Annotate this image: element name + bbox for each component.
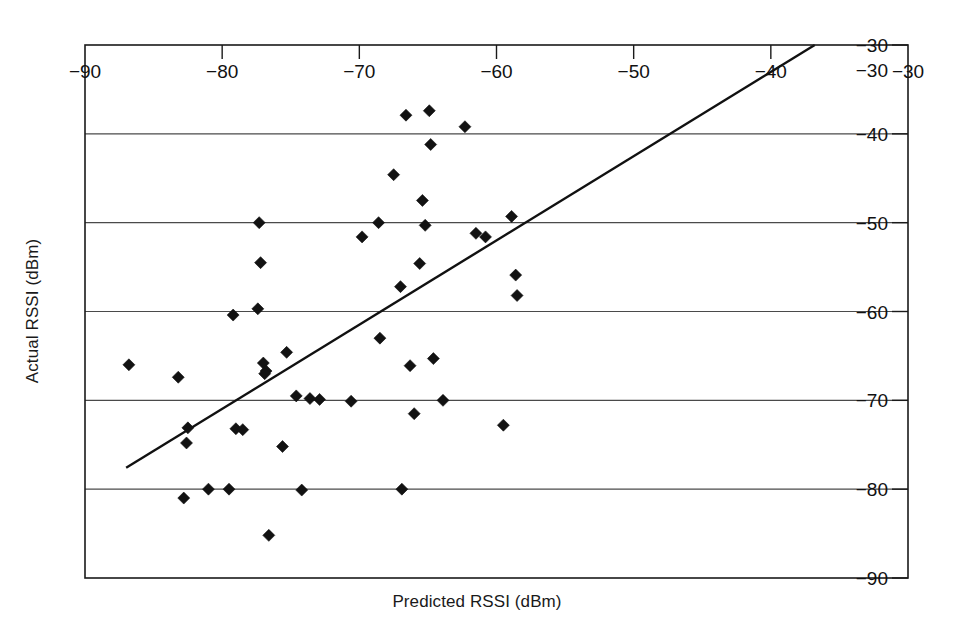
x-tick-label: −60 xyxy=(480,61,512,82)
plot-canvas: −90−80−70−60−50−40−30 −30−40−50−60−70−80… xyxy=(0,0,955,642)
y-tick-label: −40 xyxy=(856,124,888,145)
x-tick-label: −90 xyxy=(69,61,101,82)
y-axis-title: Actual RSSI (dBm) xyxy=(23,239,42,383)
scatter-plot-figure: −90−80−70−60−50−40−30 −30−40−50−60−70−80… xyxy=(0,0,955,642)
x-tick-label: −80 xyxy=(206,61,238,82)
y-tick-label: −60 xyxy=(856,302,888,323)
y-tick-label: −90 xyxy=(856,568,888,589)
x-tick-label: −30 xyxy=(892,61,924,82)
y-tick-label: −80 xyxy=(856,479,888,500)
x-tick-label: −50 xyxy=(618,61,650,82)
y-tick-label: −50 xyxy=(856,213,888,234)
x-tick-label: −70 xyxy=(343,61,375,82)
y-tick-label: −70 xyxy=(856,390,888,411)
y-tick-label-secondary: −30 xyxy=(856,60,888,81)
y-tick-label: −30 xyxy=(856,35,888,56)
x-tick-label: −40 xyxy=(755,61,787,82)
x-axis-title: Predicted RSSI (dBm) xyxy=(392,592,561,611)
